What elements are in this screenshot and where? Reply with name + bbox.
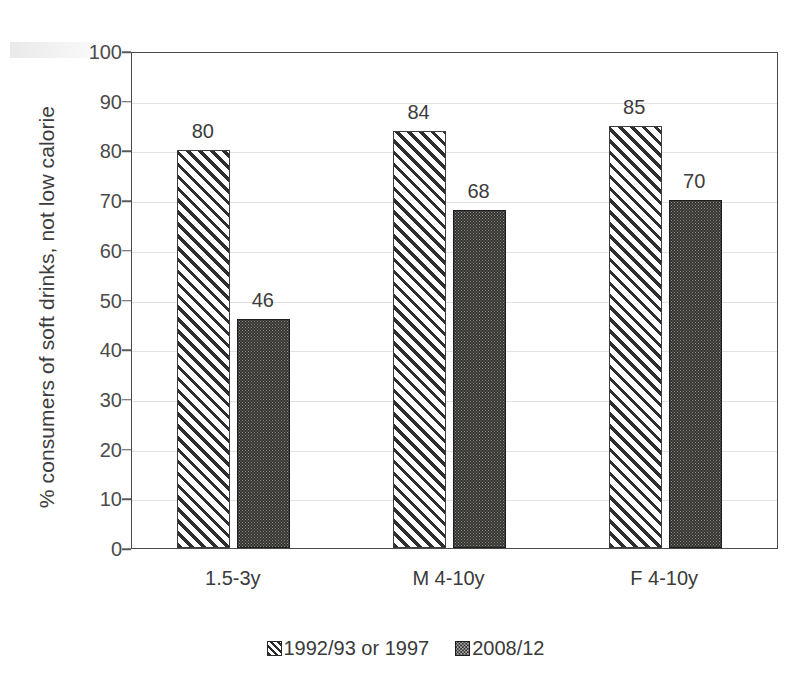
chart-legend: 1992/93 or 19972008/12 xyxy=(0,637,811,660)
y-axis-tick-mark xyxy=(122,449,131,451)
bar-value-label: 80 xyxy=(192,120,214,143)
y-axis-tick-mark xyxy=(122,200,131,202)
bar xyxy=(237,319,290,548)
bar xyxy=(609,126,662,548)
y-axis-tick-label: 50 xyxy=(62,289,122,312)
y-axis-tick-label: 10 xyxy=(62,488,122,511)
y-axis-tick-label: 40 xyxy=(62,339,122,362)
bar-value-label: 68 xyxy=(467,180,489,203)
y-axis-title: % consumers of soft drinks, not low calo… xyxy=(35,47,59,567)
bar-value-label: 85 xyxy=(623,96,645,119)
y-axis-tick-mark xyxy=(122,300,131,302)
y-axis-tick-label: 90 xyxy=(62,90,122,113)
y-axis-tick-mark xyxy=(122,51,131,53)
y-axis-tick-mark xyxy=(122,499,131,501)
y-axis-tick-label: 30 xyxy=(62,388,122,411)
x-axis-category-label: 1.5-3y xyxy=(205,567,261,590)
y-axis-tick-mark xyxy=(122,101,131,103)
y-axis-tick-mark xyxy=(122,151,131,153)
bar xyxy=(393,131,446,548)
bar-value-label: 70 xyxy=(683,170,705,193)
bar-chart-figure: % consumers of soft drinks, not low calo… xyxy=(0,0,811,694)
legend-entry: 1992/93 or 1997 xyxy=(267,637,430,660)
y-axis-tick-label: 70 xyxy=(62,190,122,213)
y-axis-tick-label: 20 xyxy=(62,438,122,461)
hatched-square-icon xyxy=(267,641,282,656)
y-axis-tick-mark xyxy=(122,548,131,550)
bar xyxy=(453,210,506,548)
y-axis-tick-label: 80 xyxy=(62,140,122,163)
y-axis-tick-mark xyxy=(122,349,131,351)
y-axis-tick-mark xyxy=(122,250,131,252)
y-axis-tick-mark xyxy=(122,399,131,401)
y-axis-tick-label: 60 xyxy=(62,239,122,262)
y-axis-tick-label: 100 xyxy=(62,41,122,64)
legend-entry: 2008/12 xyxy=(455,637,544,660)
x-axis-category-label: M 4-10y xyxy=(412,567,484,590)
y-axis-tick-label: 0 xyxy=(62,538,122,561)
bar-value-label: 46 xyxy=(252,289,274,312)
bar xyxy=(669,200,722,548)
plot-area xyxy=(131,52,778,549)
x-axis-category-label: F 4-10y xyxy=(630,567,698,590)
dotted-square-icon xyxy=(455,641,470,656)
bar-value-label: 84 xyxy=(407,101,429,124)
gridline xyxy=(132,103,777,104)
legend-label: 2008/12 xyxy=(472,637,544,660)
bar xyxy=(177,150,230,548)
legend-label: 1992/93 or 1997 xyxy=(284,637,430,660)
